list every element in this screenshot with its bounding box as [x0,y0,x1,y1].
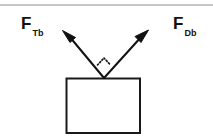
force-symbol-left: F [21,14,31,33]
force-label-right: FDb [173,15,195,35]
force-label-left: FTb [21,15,42,35]
right-angle-marker [98,58,111,65]
force-subscript-right: Db [184,28,196,38]
force-vector-left [63,31,105,79]
force-vector-right [104,30,149,78]
force-subscript-left: Tb [32,28,43,38]
figure-canvas: FTb FDb [0,0,213,138]
block-rectangle [67,79,141,134]
force-symbol-right: F [173,14,183,33]
